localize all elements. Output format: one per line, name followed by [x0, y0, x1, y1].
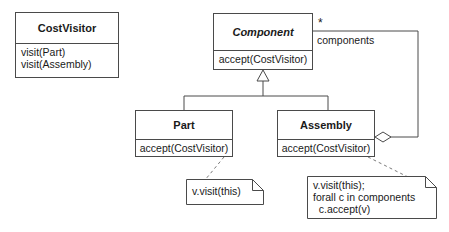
operation-accept-assembly: accept(CostVisitor)	[278, 142, 374, 154]
class-name-part: Part	[136, 111, 232, 139]
part-note-anchor	[205, 157, 224, 180]
class-box-part[interactable]: Part accept(CostVisitor)	[135, 110, 233, 157]
operation-visit-assembly: visit(Assembly)	[21, 58, 114, 70]
class-box-assembly[interactable]: Assembly accept(CostVisitor)	[277, 110, 375, 157]
note-assembly-accept-line-3: c.accept(v)	[313, 203, 370, 215]
note-part-accept[interactable]: v.visit(this)	[186, 179, 264, 205]
operations-compartment-part: accept(CostVisitor)	[136, 140, 232, 156]
class-box-cost-visitor[interactable]: CostVisitor visit(Part) visit(Assembly)	[15, 12, 119, 78]
operation-accept-component: accept(CostVisitor)	[214, 53, 312, 65]
operations-compartment-assembly: accept(CostVisitor)	[278, 140, 374, 156]
note-assembly-accept-line-2: forall c in components	[313, 191, 415, 203]
class-box-component[interactable]: Component accept(CostVisitor)	[213, 13, 313, 70]
operations-compartment-cost-visitor: visit(Part) visit(Assembly)	[16, 44, 118, 72]
uml-class-diagram-canvas: CostVisitor visit(Part) visit(Assembly) …	[0, 0, 449, 232]
class-name-component: Component	[214, 14, 312, 50]
class-name-cost-visitor: CostVisitor	[16, 13, 118, 43]
operation-visit-part: visit(Part)	[21, 46, 114, 58]
operation-accept-part: accept(CostVisitor)	[136, 142, 232, 154]
association-role-label: components	[317, 34, 374, 46]
note-part-accept-line-1: v.visit(this)	[192, 185, 241, 197]
note-assembly-accept[interactable]: v.visit(this); forall c in components c.…	[307, 176, 437, 219]
association-multiplicity: *	[318, 18, 323, 28]
operations-compartment-component: accept(CostVisitor)	[214, 51, 312, 67]
class-name-assembly: Assembly	[278, 111, 374, 139]
generalization-connector	[184, 70, 328, 110]
note-assembly-accept-line-1: v.visit(this);	[313, 179, 365, 191]
